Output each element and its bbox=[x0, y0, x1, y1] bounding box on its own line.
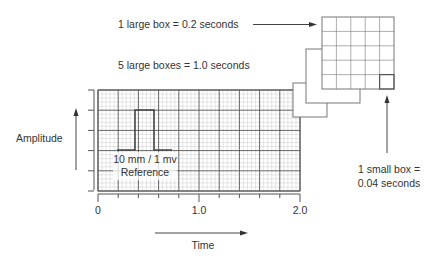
zoom-box-front bbox=[322, 17, 394, 89]
x-tick-label: 1.0 bbox=[192, 204, 207, 216]
large-box-annotation: 1 large box = 0.2 seconds bbox=[118, 18, 239, 30]
amplitude-arrowhead-icon bbox=[74, 108, 79, 116]
time-label: Time bbox=[192, 239, 215, 251]
amplitude-label: Amplitude bbox=[16, 132, 63, 144]
amplitude-axis bbox=[88, 90, 94, 191]
small-box-annotation-line2: 0.04 seconds bbox=[358, 177, 420, 189]
reference-label-line1: 10 mm / 1 mv bbox=[113, 153, 177, 165]
x-tick-label: 0 bbox=[95, 204, 101, 216]
reference-label-line2: Reference bbox=[121, 166, 170, 178]
time-arrowhead-icon bbox=[240, 231, 248, 236]
small-box-annotation-line1: 1 small box = bbox=[358, 163, 420, 175]
small-box-arrowhead-icon bbox=[385, 95, 390, 103]
x-tick-label: 2.0 bbox=[293, 204, 308, 216]
time-axis bbox=[98, 194, 300, 202]
large-box-arrowhead-icon bbox=[309, 22, 317, 27]
five-boxes-annotation: 5 large boxes = 1.0 seconds bbox=[118, 59, 250, 71]
ecg-paper-diagram: 10 mm / 1 mv Reference Amplitude 0 1.0 2… bbox=[0, 0, 442, 266]
